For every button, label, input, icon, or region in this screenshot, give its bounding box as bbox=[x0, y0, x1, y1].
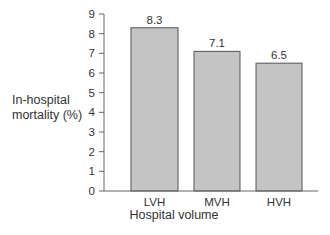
y-tick-label: 1 bbox=[89, 165, 95, 177]
y-axis-label: In-hospital mortality (%) bbox=[12, 93, 82, 123]
x-tick-label: HVH bbox=[267, 196, 291, 208]
bars: 8.37.16.5 bbox=[131, 14, 302, 191]
y-axis: 0123456789 bbox=[89, 8, 104, 197]
bar-value-label: 8.3 bbox=[147, 14, 163, 26]
bar-hvh bbox=[256, 63, 302, 191]
y-tick-label: 4 bbox=[89, 106, 96, 118]
y-tick-label: 3 bbox=[89, 126, 95, 138]
bar-value-label: 6.5 bbox=[271, 49, 287, 61]
x-tick-label: LVH bbox=[144, 196, 166, 208]
bar-mvh bbox=[194, 51, 240, 191]
y-tick-label: 2 bbox=[89, 146, 95, 158]
x-axis-title: Hospital volume bbox=[130, 208, 219, 222]
y-tick-label: 7 bbox=[89, 47, 95, 59]
y-tick-label: 9 bbox=[89, 8, 95, 20]
bar-lvh bbox=[131, 28, 178, 191]
y-tick-label: 5 bbox=[89, 87, 95, 99]
y-axis-label-line-1: In-hospital bbox=[12, 93, 82, 108]
y-tick-label: 6 bbox=[89, 67, 95, 79]
y-tick-label: 8 bbox=[89, 28, 95, 40]
x-tick-label: MVH bbox=[204, 196, 230, 208]
x-axis: LVHMVHHVH bbox=[104, 191, 318, 208]
y-axis-label-line-2: mortality (%) bbox=[12, 108, 82, 123]
y-tick-label: 0 bbox=[89, 185, 95, 197]
bar-value-label: 7.1 bbox=[209, 37, 225, 49]
